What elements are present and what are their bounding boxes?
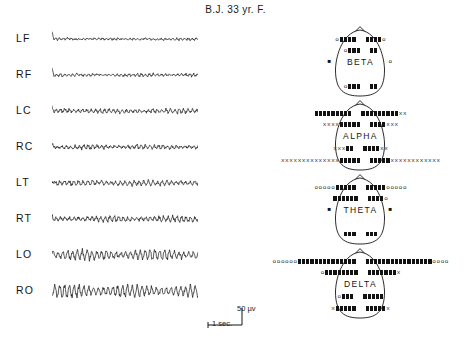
marker-square <box>344 185 347 190</box>
marker-x: x <box>335 156 339 165</box>
marker-segment-left <box>314 109 352 118</box>
side-marker-right: o <box>389 58 393 65</box>
marker-square <box>333 270 336 275</box>
marker-square <box>412 259 415 264</box>
marker-square <box>370 185 373 190</box>
head-map-theta: oooooooooooTHETA■■ <box>250 174 471 249</box>
marker-square <box>374 232 377 237</box>
marker-square <box>370 306 373 311</box>
marker-x: x <box>396 268 400 277</box>
marker-square <box>372 146 375 151</box>
marker-segment-left: ooooo <box>314 183 356 192</box>
marker-segment-left: o <box>335 35 356 44</box>
channel-waveform-left-occipital <box>52 242 198 276</box>
marker-row: oo <box>250 35 471 44</box>
marker-square <box>340 158 343 163</box>
marker-square <box>319 259 322 264</box>
marker-square <box>306 259 309 264</box>
eeg-channel-right-temporal: RT <box>0 206 240 240</box>
marker-x: x <box>331 304 335 313</box>
marker-square <box>372 270 375 275</box>
marker-x: x <box>436 156 440 165</box>
marker-square <box>340 111 343 116</box>
marker-square <box>399 259 402 264</box>
marker-square <box>370 158 373 163</box>
calibration-time-label: 1 sec. <box>212 319 232 328</box>
marker-segment-right: oooo <box>365 257 449 266</box>
marker-square <box>380 270 383 275</box>
marker-square <box>336 185 339 190</box>
marker-square <box>376 270 379 275</box>
marker-o: o <box>331 183 335 192</box>
marker-segment-left: o <box>343 82 360 91</box>
marker-square <box>382 158 385 163</box>
marker-square <box>336 111 339 116</box>
marker-square <box>407 259 410 264</box>
marker-square <box>370 259 373 264</box>
marker-square <box>338 270 341 275</box>
eeg-trace-panel: LFRFLCRCLTRTLORO <box>0 26 240 322</box>
marker-square <box>346 294 349 299</box>
marker-segment-right <box>365 230 378 239</box>
marker-row: xxxxx <box>250 144 471 153</box>
marker-row: oooooooooo <box>250 183 471 192</box>
channel-waveform-left-central <box>52 98 198 132</box>
marker-square <box>368 146 371 151</box>
marker-row: oooooooooo <box>250 257 471 266</box>
marker-square <box>374 48 377 53</box>
marker-square <box>352 259 355 264</box>
channel-label-left-frontal: LF <box>16 32 31 44</box>
marker-square <box>348 84 351 89</box>
marker-square <box>348 185 351 190</box>
eeg-channel-right-frontal: RF <box>0 62 240 96</box>
marker-square <box>344 122 347 127</box>
marker-segment-right: ooooo <box>365 183 407 192</box>
marker-o: o <box>343 46 347 55</box>
channel-label-right-frontal: RF <box>16 68 32 80</box>
marker-square <box>342 294 345 299</box>
marker-row: xxxxxxx <box>250 120 471 129</box>
marker-segment-right: o <box>365 35 386 44</box>
marker-square <box>352 158 355 163</box>
marker-square <box>378 158 381 163</box>
eeg-channel-right-occipital: RO <box>0 278 240 312</box>
marker-o: o <box>403 183 407 192</box>
marker-square <box>333 196 336 201</box>
marker-square <box>384 270 387 275</box>
marker-x: x <box>384 144 388 153</box>
marker-square <box>370 84 373 89</box>
band-label-theta: THETA <box>250 205 471 215</box>
marker-square <box>331 259 334 264</box>
marker-square <box>302 259 305 264</box>
marker-row <box>250 230 471 239</box>
marker-square <box>344 259 347 264</box>
marker-segment-right: xx <box>361 109 407 118</box>
marker-square <box>352 122 355 127</box>
marker-square <box>352 48 355 53</box>
marker-square <box>357 122 360 127</box>
band-label-alpha: ALPHA <box>250 131 471 141</box>
marker-square <box>357 84 360 89</box>
marker-segment-right: o <box>367 194 388 203</box>
marker-square <box>336 259 339 264</box>
marker-square <box>424 259 427 264</box>
marker-square <box>336 306 339 311</box>
marker-square <box>344 306 347 311</box>
marker-square <box>370 48 373 53</box>
marker-segment-left: xxx <box>333 144 354 153</box>
marker-square <box>363 146 366 151</box>
marker-square <box>344 37 347 42</box>
marker-segment-right: xx <box>363 144 388 153</box>
marker-square <box>378 259 381 264</box>
marker-square <box>370 111 373 116</box>
marker-square <box>391 111 394 116</box>
marker-square <box>350 196 353 201</box>
marker-square <box>348 48 351 53</box>
marker-row: o <box>250 194 471 203</box>
marker-square <box>323 259 326 264</box>
side-marker-left: ■ <box>328 58 332 65</box>
marker-segment-left: x <box>331 304 356 313</box>
marker-row: xx <box>250 304 471 313</box>
marker-square <box>348 259 351 264</box>
marker-square <box>374 37 377 42</box>
